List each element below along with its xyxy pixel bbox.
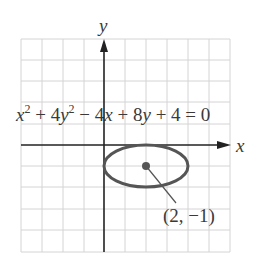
center-point-label: (2, −1) xyxy=(163,205,215,227)
svg-text:x2 + 4y2 − 4x + 8y + 4 = 0: x2 + 4y2 − 4x + 8y + 4 = 0 xyxy=(15,102,210,125)
leader-line xyxy=(146,166,176,203)
equation-label: x2 + 4y2 − 4x + 8y + 4 = 0 xyxy=(15,102,210,125)
x-axis-label: x xyxy=(235,135,245,156)
x-axis-arrow-icon xyxy=(217,141,231,149)
y-axis-label: y xyxy=(97,15,108,36)
ellipse-diagram: x2 + 4y2 − 4x + 8y + 4 = 0 y x (2, −1) xyxy=(0,0,257,259)
y-axis-arrow-icon xyxy=(100,39,108,52)
